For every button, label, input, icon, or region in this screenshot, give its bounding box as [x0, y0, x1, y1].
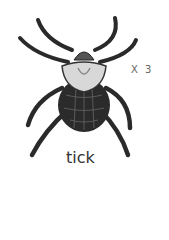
caption-label: tick	[66, 148, 95, 167]
magnification-label: X 3	[131, 64, 153, 75]
